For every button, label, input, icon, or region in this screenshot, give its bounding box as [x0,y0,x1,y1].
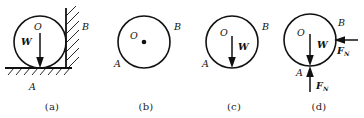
label-contact-b: B [81,21,89,32]
label-center-o: O [297,27,305,38]
label-normal-force-ground: F N [315,80,329,92]
label-contact-a: A [295,67,303,78]
panel-a-diagram: O W B A [0,0,104,110]
panel-a-caption: (a) [0,101,104,112]
label-center-o: O [130,30,138,41]
panel-b: O B A (b) [100,0,192,118]
label-center-o: O [220,27,228,38]
label-weight-w: W [317,39,329,50]
label-contact-b: B [337,17,345,28]
panel-a: O W B A (a) [0,0,104,118]
weight-arrow [36,33,44,68]
ground-hatching [8,68,70,75]
panel-d-diagram: O W B A F N F N [274,0,364,110]
panel-c-diagram: O W B A [188,0,280,110]
panel-d-caption: (d) [274,101,364,112]
label-center-o: O [34,21,42,32]
label-contact-a: A [201,58,209,69]
label-contact-a: A [28,81,36,92]
normal-force-wall-arrow [334,36,358,44]
normal-force-ground-arrow [306,66,314,92]
label-normal-force-wall: F N [336,45,350,57]
weight-arrow [228,36,236,68]
label-contact-b: B [173,21,181,32]
figure-canvas: O W B A (a) O B A (b) O W B A [0,0,364,118]
panel-b-diagram: O B A [100,0,192,110]
center-dot [142,40,147,45]
label-contact-a: A [113,58,121,69]
label-contact-b: B [261,21,269,32]
label-weight-w: W [21,36,33,47]
force-subscript-wall: N [343,50,350,57]
panel-c-caption: (c) [188,101,280,112]
panel-c: O W B A (c) [188,0,280,118]
weight-arrow [306,34,314,66]
panel-b-caption: (b) [100,101,192,112]
wall-hatching [66,6,79,67]
force-subscript-ground: N [322,85,329,92]
label-weight-w: W [238,41,250,52]
panel-d: O W B A F N F N (d) [274,0,364,118]
